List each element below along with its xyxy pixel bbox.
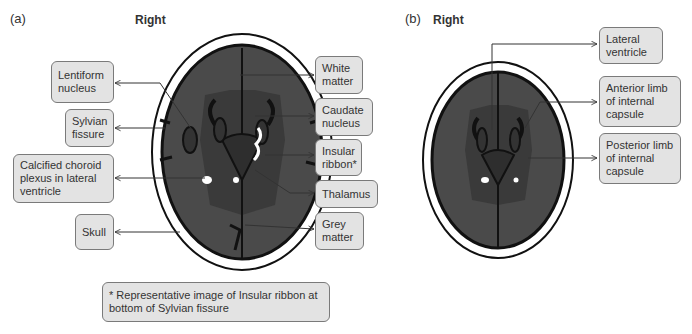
label-posterior-limb-internal-capsule: Posterior limb of internal capsule bbox=[599, 133, 681, 184]
label-sylvian-fissure: Sylvian fissure bbox=[65, 109, 114, 147]
label-insular-ribbon: Insular ribbon* bbox=[315, 139, 362, 176]
label-lateral-ventricle: Lateral ventricle bbox=[599, 27, 663, 64]
label-white-matter: White matter bbox=[315, 56, 363, 94]
label-anterior-limb-internal-capsule: Anterior limb of internal capsule bbox=[599, 76, 681, 127]
brain-a bbox=[152, 34, 332, 270]
orientation-label-b: Right bbox=[433, 13, 464, 27]
brain-ct-diagram: (a) Right Lentiform nucleus Sylvian fiss… bbox=[0, 0, 692, 334]
orientation-label-a: Right bbox=[135, 13, 166, 27]
label-skull: Skull bbox=[75, 214, 114, 250]
label-lentiform-nucleus: Lentiform nucleus bbox=[51, 61, 114, 103]
panel-label-b: (b) bbox=[405, 11, 421, 26]
label-calcified-choroid-plexus: Calcified choroid plexus in lateral vent… bbox=[13, 154, 114, 203]
panel-label-a: (a) bbox=[10, 11, 26, 26]
label-thalamus: Thalamus bbox=[315, 180, 378, 208]
label-caudate-nucleus: Caudate nucleus bbox=[315, 98, 373, 136]
label-grey-matter: Grey matter bbox=[315, 212, 364, 250]
brain-b bbox=[423, 62, 573, 258]
footnote-box: * Representative image of Insular ribbon… bbox=[102, 282, 330, 322]
